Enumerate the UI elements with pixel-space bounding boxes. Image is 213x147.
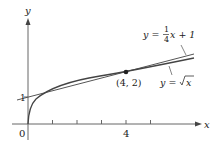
x-tick-label-4: 4 — [123, 128, 129, 139]
curve-label-rhs: x — [186, 77, 192, 88]
tangent-label-lhs: y = — [142, 29, 159, 40]
y-axis-label: y — [24, 5, 31, 16]
x-axis-label: x — [204, 119, 210, 130]
curve-label-lhs: y = — [159, 77, 176, 88]
point-label: (4, 2) — [116, 77, 142, 88]
tangent-label-den: 4 — [164, 35, 169, 44]
x-ticks — [53, 120, 151, 124]
x-axis-arrow-icon — [195, 122, 202, 127]
curve-label-leader — [169, 66, 172, 75]
tangent-label-num: 1 — [164, 25, 169, 34]
tangent-label-rhs: x + 1 — [170, 29, 195, 40]
y-tick-label-1: 1 — [20, 93, 26, 103]
tangent-label-leader — [181, 45, 186, 55]
origin-label: 0 — [19, 128, 25, 139]
tangent-line-diagram: y x 0 4 1 (4, 2) y = 1 4 x + 1 y = x — [0, 0, 213, 147]
y-axis-arrow-icon — [26, 18, 31, 25]
tangent-point — [124, 70, 129, 75]
